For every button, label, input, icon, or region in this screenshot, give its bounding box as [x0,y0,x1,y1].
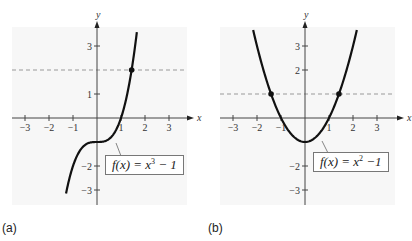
intersection-point [129,67,135,73]
intersection-point [336,91,342,97]
function-name: f(x) [320,154,338,169]
panel-a-background [12,27,187,205]
y-tick-label: −3 [289,185,300,196]
panel-label-b: (b) [208,221,223,235]
equation-text: = x [133,157,151,172]
intersection-point [268,91,274,97]
x-tick-label: 2 [143,122,148,133]
y-tick-label: −3 [81,185,92,196]
figure-canvas: xy−3−2−1123−3−213 xy−3−2−1123−3−223 [0,0,412,241]
panel-label-a: (a) [2,221,17,235]
equation-text: = x [341,154,359,169]
x-tick-label: −2 [44,122,55,133]
x-axis-label: x [196,112,202,123]
equation-rest: − 1 [155,157,177,172]
y-tick-label: 3 [295,41,300,52]
y-tick-label: 2 [295,65,300,76]
y-tick-label: −2 [81,161,92,172]
x-tick-label: −3 [228,122,239,133]
equation-rest: −1 [363,154,382,169]
y-axis-arrow-icon [95,21,100,28]
y-axis-arrow-icon [303,21,308,28]
x-tick-label: 1 [327,122,332,133]
x-axis-arrow-icon [187,116,194,121]
y-axis-label: y [303,9,309,20]
function-label-a: f(x) = x3 − 1 [105,155,184,175]
y-tick-label: −2 [289,161,300,172]
x-tick-label: 3 [375,122,380,133]
y-axis-label: y [95,9,101,20]
x-tick-label: −1 [68,122,79,133]
x-tick-label: −2 [252,122,263,133]
x-axis-label: x [406,112,412,123]
y-tick-label: 3 [87,41,92,52]
y-tick-label: 1 [87,89,92,100]
function-label-b: f(x) = x2 −1 [313,152,389,172]
x-tick-label: 3 [167,122,172,133]
x-tick-label: 2 [351,122,356,133]
panel-b-background [220,27,395,205]
x-tick-label: −3 [20,122,31,133]
function-name: f(x) [112,157,130,172]
x-axis-arrow-icon [397,116,404,121]
